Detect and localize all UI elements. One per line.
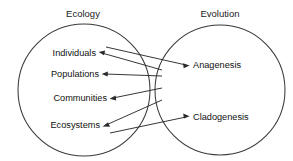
- evolution-circle: [155, 25, 285, 155]
- arrow-head-to-communities: [110, 96, 117, 101]
- connector-ecosystems-to-cladogenesis: [110, 117, 186, 133]
- node-label-communities: Communities: [53, 93, 107, 103]
- arrow-head-to-cladogenesis: [183, 114, 189, 119]
- connector-cladogenesis-to-ecosystems: [106, 100, 162, 125]
- ecology-circle: [18, 24, 150, 156]
- arrow-head-to-anagenesis-upper: [183, 63, 190, 68]
- arrow-head-to-ecosystems: [103, 122, 110, 127]
- arrow-head-to-individuals: [99, 50, 106, 55]
- diagram-root: Ecology Evolution Individuals Population…: [0, 0, 293, 161]
- connector-anagenesis-to-populations: [105, 74, 162, 76]
- group-title-evolution: Evolution: [200, 8, 239, 19]
- node-label-individuals: Individuals: [53, 48, 97, 58]
- node-label-anagenesis: Anagenesis: [193, 60, 241, 70]
- node-label-populations: Populations: [51, 69, 99, 79]
- node-label-ecosystems: Ecosystems: [50, 120, 100, 130]
- group-title-ecology: Ecology: [66, 8, 100, 19]
- arrow-head-to-populations: [102, 72, 108, 77]
- diagram-canvas: Ecology Evolution Individuals Population…: [0, 0, 293, 161]
- connector-individuals-to-anagenesis: [106, 47, 186, 65]
- connector-anagenesis-to-individuals: [102, 53, 162, 70]
- node-label-cladogenesis: Cladogenesis: [193, 112, 249, 122]
